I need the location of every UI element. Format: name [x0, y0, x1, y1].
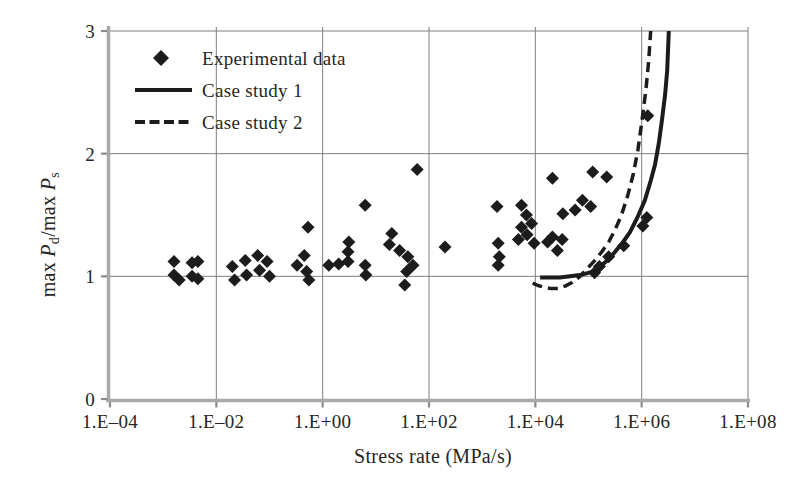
data-point-diamond	[490, 200, 503, 213]
data-point-diamond	[546, 172, 559, 185]
y-axis-title-part: /max	[37, 190, 59, 237]
legend-label-case-study-2: Case study 2	[202, 112, 303, 133]
x-tick-label: 1.E+02	[400, 411, 457, 432]
x-tick-label: 1.E–02	[188, 411, 244, 432]
x-tick-label: 1.E+06	[613, 411, 670, 432]
x-tick-label: 1.E–04	[82, 411, 138, 432]
data-point-diamond	[332, 258, 345, 271]
y-tick-label: 2	[85, 144, 95, 165]
data-point-diamond	[556, 233, 569, 246]
data-point-diamond	[383, 238, 396, 251]
data-point-diamond	[228, 274, 241, 287]
data-point-diamond	[359, 269, 372, 282]
data-point-diamond	[586, 166, 599, 179]
data-point-diamond	[359, 199, 372, 212]
case-study-2-curve	[533, 31, 651, 289]
data-point-diamond	[322, 259, 335, 272]
legend-label-case-study-1: Case study 1	[202, 80, 303, 101]
x-tick-label: 1.E+00	[294, 411, 351, 432]
y-axis-title-part: P	[37, 244, 59, 258]
legend-diamond-icon	[153, 50, 169, 66]
data-point-diamond	[291, 259, 304, 272]
data-point-diamond	[569, 204, 582, 217]
data-point-diamond	[600, 170, 613, 183]
data-point-diamond	[226, 260, 239, 273]
chart-figure: 1.E–041.E–021.E+001.E+021.E+041.E+061.E+…	[0, 0, 810, 492]
x-tick-label: 1.E+08	[719, 411, 776, 432]
data-point-diamond	[439, 240, 452, 253]
chart-canvas: 1.E–041.E–021.E+001.E+021.E+041.E+061.E+…	[0, 0, 810, 492]
x-axis-title: Stress rate (MPa/s)	[354, 445, 512, 468]
y-tick-label: 3	[85, 21, 95, 42]
y-tick-label: 1	[85, 266, 95, 287]
data-point-diamond	[551, 244, 564, 257]
experimental-data-series	[168, 109, 655, 291]
data-point-diamond	[528, 237, 541, 250]
data-point-diamond	[168, 255, 181, 268]
data-point-diamond	[253, 264, 266, 277]
data-point-diamond	[302, 221, 315, 234]
x-tick-label: 1.E+04	[507, 411, 565, 432]
legend: Experimental data Case study 1 Case stud…	[135, 48, 346, 133]
y-axis-title-subscript: s	[47, 172, 62, 178]
data-point-diamond	[342, 255, 355, 268]
data-point-diamond	[411, 163, 424, 176]
data-point-diamond	[342, 235, 355, 248]
data-point-diamond	[240, 269, 253, 282]
y-axis-title: max Pd/max Ps	[37, 146, 63, 335]
data-point-diamond	[385, 227, 398, 240]
data-point-diamond	[239, 254, 252, 267]
legend-label-experimental-data: Experimental data	[202, 48, 346, 69]
data-point-diamond	[556, 207, 569, 220]
y-axis-title-part: P	[37, 178, 59, 192]
data-point-diamond	[493, 250, 506, 263]
y-axis-title-subscript: d	[47, 237, 62, 244]
data-point-diamond	[492, 237, 505, 250]
data-point-diamond	[263, 270, 276, 283]
data-point-diamond	[617, 239, 630, 252]
y-axis-title-part: max	[37, 257, 59, 298]
data-point-diamond	[398, 278, 411, 291]
data-point-diamond	[298, 249, 311, 262]
y-tick-label: 0	[85, 389, 95, 410]
